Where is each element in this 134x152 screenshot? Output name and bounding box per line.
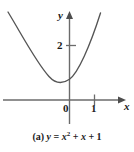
y-axis-arrowhead bbox=[66, 11, 73, 19]
parabola-helper bbox=[7, 11, 107, 93]
caption-term2: x bbox=[81, 131, 86, 142]
caption-lhs: y bbox=[47, 131, 51, 142]
caption-term1-exponent: 2 bbox=[67, 130, 71, 138]
y-tick-label-2: 2 bbox=[57, 40, 63, 51]
caption-term3: 1 bbox=[97, 131, 102, 142]
y-axis-label: y bbox=[58, 10, 63, 21]
x-tick-label-1: 1 bbox=[91, 103, 97, 114]
parabola-curve bbox=[8, 12, 101, 82]
caption-equals: = bbox=[54, 131, 60, 142]
figure-caption: (a) y = x2 + x + 1 bbox=[0, 131, 134, 142]
caption-part-label: (a) bbox=[32, 131, 44, 142]
caption-plus-1: + bbox=[73, 131, 79, 142]
plot-area: y x 0 1 2 bbox=[0, 0, 134, 128]
caption-plus-2: + bbox=[88, 131, 94, 142]
x-axis-label: x bbox=[124, 101, 130, 112]
figure-parabola: y x 0 1 2 (a) y = x2 + x + 1 bbox=[0, 0, 134, 152]
origin-label: 0 bbox=[63, 103, 69, 114]
